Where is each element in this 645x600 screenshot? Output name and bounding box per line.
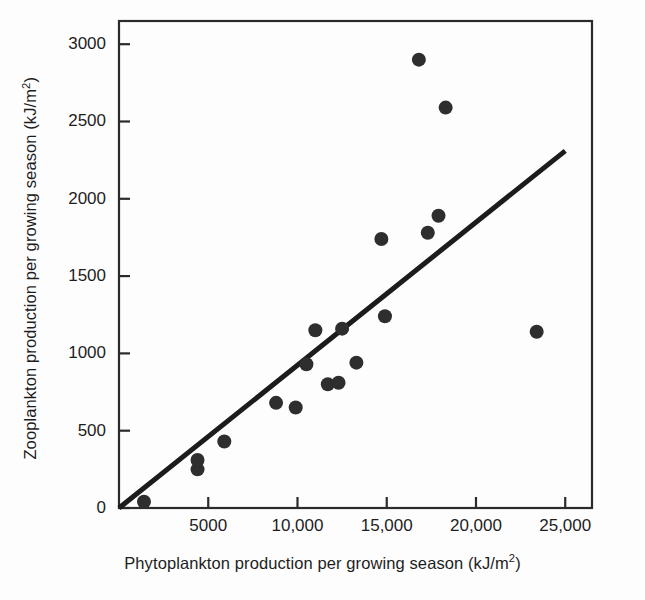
plot-frame-rect bbox=[119, 21, 592, 508]
plot-canvas bbox=[0, 0, 645, 600]
axis-ticks bbox=[119, 44, 565, 508]
data-points bbox=[137, 53, 544, 509]
data-point-17 bbox=[439, 101, 453, 115]
data-point-4 bbox=[269, 396, 283, 410]
data-point-2 bbox=[191, 453, 205, 467]
scatter-plot-figure: Zooplankton production per growing seaso… bbox=[0, 0, 645, 600]
plot-frame bbox=[119, 21, 592, 508]
data-point-16 bbox=[431, 209, 445, 223]
data-point-15 bbox=[421, 226, 435, 240]
data-point-9 bbox=[332, 376, 346, 390]
data-point-5 bbox=[289, 401, 303, 415]
data-point-3 bbox=[217, 435, 231, 449]
data-point-14 bbox=[412, 53, 426, 67]
data-point-10 bbox=[335, 322, 349, 336]
data-point-11 bbox=[349, 356, 363, 370]
data-point-0 bbox=[137, 495, 151, 509]
data-point-6 bbox=[299, 357, 313, 371]
data-point-18 bbox=[530, 325, 544, 339]
data-point-7 bbox=[308, 323, 322, 337]
data-point-13 bbox=[378, 309, 392, 323]
data-point-12 bbox=[374, 232, 388, 246]
